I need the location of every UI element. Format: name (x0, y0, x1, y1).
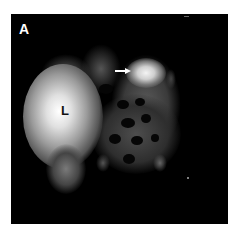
uptake-region (96, 154, 110, 172)
cold-spot (131, 136, 143, 145)
cold-spot (141, 114, 151, 123)
cold-spot (121, 118, 135, 128)
uptake-region (153, 154, 167, 172)
organ-label: L (61, 103, 69, 118)
cold-spot (123, 154, 135, 164)
noise-speck (184, 16, 189, 17)
uptake-region (166, 69, 176, 89)
arrow-icon (115, 69, 131, 72)
cold-spot (135, 98, 145, 106)
cold-spot (151, 134, 159, 142)
focal-uptake (126, 58, 166, 88)
liver-uptake-tail (46, 144, 86, 194)
cold-spot (99, 84, 113, 94)
panel-label: A (19, 21, 29, 37)
noise-speck (187, 177, 189, 179)
cold-spot (117, 100, 129, 109)
scan-image: A L (11, 14, 228, 224)
cold-spot (109, 134, 121, 144)
